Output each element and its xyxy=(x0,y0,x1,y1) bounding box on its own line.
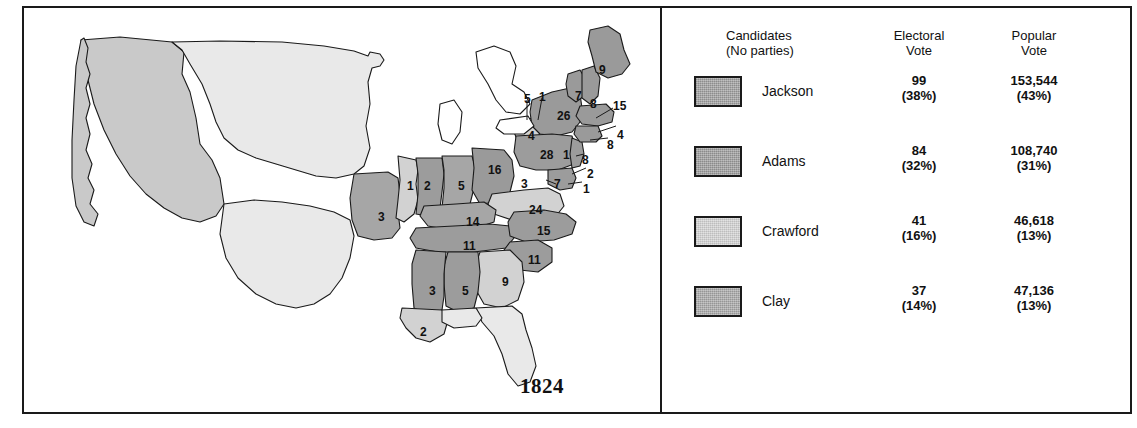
ev-label-maryland-west: 7 xyxy=(554,178,561,190)
electoral-percent: (38%) xyxy=(875,88,963,103)
legend-row[interactable]: Clay37(14%)47,136(13%) xyxy=(672,278,1130,336)
legend-swatch-adams xyxy=(694,146,742,177)
electoral-vote-value: 84(32%) xyxy=(875,143,963,173)
ev-label-ohio: 16 xyxy=(488,164,501,176)
ev-label-kentucky: 14 xyxy=(466,216,479,228)
legend-swatch-clay xyxy=(694,286,742,317)
electoral-vote-value: 41(16%) xyxy=(875,213,963,243)
region-gulf-coast xyxy=(442,308,482,328)
ev-label-tennessee: 11 xyxy=(463,240,476,252)
region-arkansas-territory xyxy=(220,200,354,308)
header-candidates-line1: Candidates xyxy=(726,28,794,43)
state-mississippi xyxy=(412,250,446,314)
ev-label-illinois: 2 xyxy=(424,180,431,192)
popular-vote-value: 46,618(13%) xyxy=(985,213,1083,243)
legend-row[interactable]: Adams84(32%)108,740(31%) xyxy=(672,138,1130,196)
ev-label-alabama: 5 xyxy=(462,285,469,297)
ev-label-georgia: 9 xyxy=(502,276,509,288)
state-missouri xyxy=(350,172,400,240)
ev-label-mississippi: 3 xyxy=(429,285,436,297)
ev-label-michigan-territory: 5 xyxy=(524,93,531,105)
ev-label-upper-lakes: 1 xyxy=(539,91,546,103)
electoral-count: 84 xyxy=(875,143,963,158)
ev-label-maryland: 1 xyxy=(583,183,590,195)
header-electoral-line1: Electoral xyxy=(875,28,963,43)
great-lakes xyxy=(476,46,530,114)
ev-label-south-carolina: 11 xyxy=(528,254,541,266)
header-popular-vote: Popular Vote xyxy=(985,28,1083,58)
popular-vote-value: 153,544(43%) xyxy=(985,73,1083,103)
ev-label-missouri: 3 xyxy=(378,211,385,223)
ev-label-virginia-west: 3 xyxy=(521,178,528,190)
popular-count: 153,544 xyxy=(985,73,1083,88)
ev-label-louisiana: 2 xyxy=(420,326,427,338)
ev-label-new-jersey-state: 1 xyxy=(563,149,570,161)
popular-percent: (31%) xyxy=(985,158,1083,173)
state-tennessee xyxy=(410,224,514,252)
electoral-count: 99 xyxy=(875,73,963,88)
electoral-percent: (32%) xyxy=(875,158,963,173)
ev-label-virginia: 24 xyxy=(529,204,542,216)
electoral-count: 41 xyxy=(875,213,963,228)
ev-label-delaware: 2 xyxy=(587,168,594,180)
popular-count: 47,136 xyxy=(985,283,1083,298)
electoral-percent: (16%) xyxy=(875,228,963,243)
electoral-percent: (14%) xyxy=(875,298,963,313)
ev-label-connecticut: 8 xyxy=(607,139,614,151)
popular-vote-value: 47,136(13%) xyxy=(985,283,1083,313)
header-candidates: Candidates (No parties) xyxy=(726,28,794,58)
ev-label-indiana: 5 xyxy=(458,180,465,192)
ev-label-new-york: 26 xyxy=(557,110,570,122)
map-panel: 1824 97815264851428182171635213241415111… xyxy=(24,8,658,412)
header-popular-line1: Popular xyxy=(985,28,1083,43)
electoral-vote-value: 37(14%) xyxy=(875,283,963,313)
ev-label-new-hampshire: 8 xyxy=(590,98,597,110)
state-maryland xyxy=(548,168,576,190)
popular-count: 46,618 xyxy=(985,213,1083,228)
electoral-count: 37 xyxy=(875,283,963,298)
ev-label-massachusetts: 15 xyxy=(613,100,626,112)
ev-label-maine: 9 xyxy=(599,64,606,76)
map-year-label: 1824 xyxy=(520,374,564,399)
panel-divider xyxy=(660,6,662,414)
legend-row[interactable]: Crawford41(16%)46,618(13%) xyxy=(672,208,1130,266)
legend-panel: Candidates (No parties) Electoral Vote P… xyxy=(672,8,1130,412)
ev-label-vermont: 7 xyxy=(575,90,582,102)
candidate-name: Crawford xyxy=(762,223,819,239)
us-map-svg xyxy=(24,8,658,412)
ev-label-pennsylvania: 28 xyxy=(540,149,553,161)
popular-percent: (13%) xyxy=(985,298,1083,313)
lake-michigan xyxy=(438,100,462,144)
header-electoral-vote: Electoral Vote xyxy=(875,28,963,58)
electoral-vote-value: 99(38%) xyxy=(875,73,963,103)
popular-vote-value: 108,740(31%) xyxy=(985,143,1083,173)
ev-label-north-carolina: 15 xyxy=(537,225,550,237)
popular-percent: (43%) xyxy=(985,88,1083,103)
state-georgia xyxy=(474,250,524,308)
ev-label-rhode-island: 4 xyxy=(617,129,624,141)
header-electoral-line2: Vote xyxy=(875,43,963,58)
legend-swatch-crawford xyxy=(694,216,742,247)
candidate-name: Adams xyxy=(762,153,806,169)
ev-label-new-jersey: 8 xyxy=(582,154,589,166)
popular-count: 108,740 xyxy=(985,143,1083,158)
election-map-figure: 1824 97815264851428182171635213241415111… xyxy=(0,0,1137,428)
legend-row[interactable]: Jackson99(38%)153,544(43%) xyxy=(672,68,1130,126)
legend-swatch-jackson xyxy=(694,76,742,107)
candidate-name: Jackson xyxy=(762,83,813,99)
popular-percent: (13%) xyxy=(985,228,1083,243)
state-alabama xyxy=(444,252,480,312)
candidate-name: Clay xyxy=(762,293,790,309)
header-popular-line2: Vote xyxy=(985,43,1083,58)
ev-label-lower-michigan: 4 xyxy=(528,130,535,142)
ev-label-missouri-east: 1 xyxy=(407,180,414,192)
header-candidates-line2: (No parties) xyxy=(726,43,794,58)
